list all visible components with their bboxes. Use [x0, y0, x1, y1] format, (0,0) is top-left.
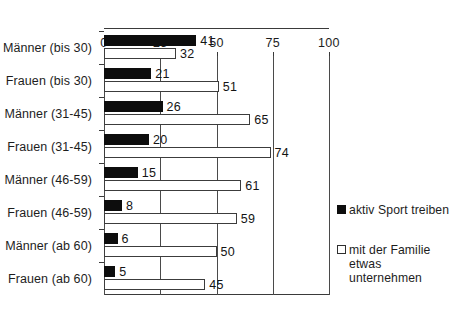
bar-value-label: 26 — [167, 99, 181, 113]
bar-group: 2151 — [104, 64, 329, 97]
bar-group: 2074 — [104, 130, 329, 163]
bar-group: 2665 — [104, 97, 329, 130]
category-label: Männer (bis 30) — [0, 31, 98, 64]
legend-swatch-outline-icon — [337, 245, 346, 254]
category-tick-mark — [99, 229, 104, 230]
plot-area: 41322151266520741561859650545 — [104, 31, 329, 295]
bar-slot: 74 — [104, 147, 329, 158]
bar-group: 545 — [104, 262, 329, 295]
bar[interactable] — [104, 266, 115, 277]
bar-slot: 32 — [104, 48, 329, 59]
bar[interactable] — [104, 134, 149, 145]
bar[interactable] — [104, 35, 196, 46]
bar-slot: 65 — [104, 114, 329, 125]
category-tick-mark — [99, 163, 104, 164]
bar-slot: 21 — [104, 68, 329, 79]
bar[interactable] — [104, 114, 250, 125]
bar[interactable] — [104, 213, 237, 224]
bar-value-label: 41 — [200, 33, 214, 47]
category-label: Männer (46-59) — [0, 163, 98, 196]
legend-label: aktiv Sport treiben — [349, 203, 449, 217]
bar-value-label: 59 — [241, 211, 255, 225]
category-axis-labels: Männer (bis 30)Frauen (bis 30)Männer (31… — [0, 31, 98, 295]
bar[interactable] — [104, 246, 217, 257]
chart-legend: aktiv Sport treibenmit der Familie etwas… — [337, 203, 457, 311]
bar-slot: 51 — [104, 81, 329, 92]
legend-entry[interactable]: aktiv Sport treiben — [337, 203, 457, 217]
bar[interactable] — [104, 81, 219, 92]
grid-line — [329, 56, 330, 295]
category-label: Männer (ab 60) — [0, 229, 98, 262]
category-tick-mark — [99, 31, 104, 32]
bar-group: 859 — [104, 196, 329, 229]
category-tick-mark — [99, 64, 104, 65]
bar[interactable] — [104, 48, 176, 59]
category-label: Frauen (31-45) — [0, 130, 98, 163]
category-tick-mark — [99, 196, 104, 197]
category-label: Frauen (bis 30) — [0, 64, 98, 97]
bar-slot: 5 — [104, 266, 329, 277]
category-tick-mark — [99, 262, 104, 263]
bar-slot: 26 — [104, 101, 329, 112]
bar-group: 1561 — [104, 163, 329, 196]
bar-slot: 61 — [104, 180, 329, 191]
bar[interactable] — [104, 147, 271, 158]
bar-value-label: 20 — [153, 132, 167, 146]
bar[interactable] — [104, 233, 118, 244]
bar-value-label: 5 — [119, 264, 126, 278]
bar-value-label: 50 — [221, 244, 235, 258]
category-label: Männer (31-45) — [0, 97, 98, 130]
bar-value-label: 51 — [223, 79, 237, 93]
bar-value-label: 6 — [122, 231, 129, 245]
bar-slot: 50 — [104, 246, 329, 257]
legend-swatch-filled-icon — [337, 205, 346, 214]
bar-chart: 0255075100 41322151266520741561859650545… — [0, 0, 462, 313]
bar-value-label: 15 — [142, 165, 156, 179]
bar[interactable] — [104, 200, 122, 211]
bar-value-label: 21 — [155, 66, 169, 80]
category-tick-mark — [99, 130, 104, 131]
bar-value-label: 45 — [209, 277, 223, 291]
bar-slot: 45 — [104, 279, 329, 290]
bar-value-label: 65 — [254, 112, 268, 126]
bar-value-label: 8 — [126, 198, 133, 212]
bar-slot: 15 — [104, 167, 329, 178]
category-label: Frauen (ab 60) — [0, 262, 98, 295]
bar-value-label: 61 — [245, 178, 259, 192]
bar-group: 4132 — [104, 31, 329, 64]
category-label: Frauen (46-59) — [0, 196, 98, 229]
legend-entry[interactable]: mit der Familie etwas unternehmen — [337, 243, 457, 285]
bar[interactable] — [104, 180, 241, 191]
bar[interactable] — [104, 167, 138, 178]
x-axis-line — [104, 28, 329, 29]
bar-value-label: 74 — [275, 145, 289, 159]
bar-slot: 6 — [104, 233, 329, 244]
bar-slot: 20 — [104, 134, 329, 145]
bar[interactable] — [104, 279, 205, 290]
bar[interactable] — [104, 68, 151, 79]
bar-group: 650 — [104, 229, 329, 262]
category-tick-mark — [99, 97, 104, 98]
bar-value-label: 32 — [180, 46, 194, 60]
bar-slot: 41 — [104, 35, 329, 46]
bar[interactable] — [104, 101, 163, 112]
bar-slot: 59 — [104, 213, 329, 224]
bar-slot: 8 — [104, 200, 329, 211]
legend-label: mit der Familie etwas unternehmen — [349, 243, 457, 285]
